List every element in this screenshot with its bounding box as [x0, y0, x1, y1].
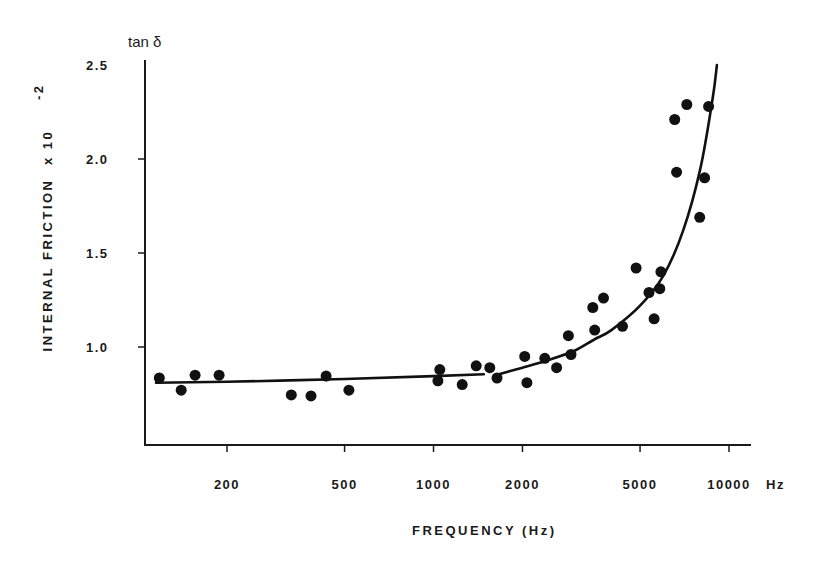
data-point	[321, 371, 332, 382]
data-point	[617, 321, 628, 332]
data-point	[539, 353, 550, 364]
y-tick-label: 1.0	[86, 340, 109, 355]
data-point	[492, 373, 503, 384]
x-tick-label: 2000	[505, 477, 540, 492]
x-tick-label: 5000	[623, 477, 658, 492]
y-axis-title-multiplier: x 10	[40, 130, 55, 165]
y-tick-label: 1.5	[86, 246, 109, 261]
y-tick-label: 2.5	[86, 58, 109, 73]
data-point	[432, 375, 443, 386]
y-tick-label: 2.0	[86, 152, 109, 167]
data-point	[154, 373, 165, 384]
data-point	[214, 370, 225, 381]
data-points	[154, 99, 714, 401]
chart: 1.01.52.02.5 tan δ INTERNAL FRICTION x 1…	[0, 0, 817, 567]
data-point	[190, 370, 201, 381]
data-point	[654, 283, 665, 294]
data-point	[598, 293, 609, 304]
data-point	[286, 389, 297, 400]
data-point	[563, 330, 574, 341]
data-point	[649, 313, 660, 324]
data-point	[655, 266, 666, 277]
y-axis: 1.01.52.02.5 tan δ INTERNAL FRICTION x 1…	[31, 33, 161, 446]
x-tick-label: 500	[331, 477, 357, 492]
data-point	[703, 101, 714, 112]
data-point	[484, 362, 495, 373]
y-ticks: 1.01.52.02.5	[86, 58, 145, 355]
data-point	[699, 172, 710, 183]
data-point	[176, 385, 187, 396]
data-point	[681, 99, 692, 110]
x-unit-label: Hz	[766, 477, 785, 492]
data-point	[521, 377, 532, 388]
data-point	[457, 379, 468, 390]
x-ticks: 20050010002000500010000	[214, 445, 751, 492]
data-point	[587, 302, 598, 313]
y-axis-title-main: INTERNAL FRICTION	[40, 179, 55, 352]
data-point	[694, 212, 705, 223]
x-axis-title: FREQUENCY (Hz)	[412, 523, 557, 538]
x-tick-label: 1000	[416, 477, 451, 492]
y-axis-title-exponent: -2	[31, 83, 46, 100]
fit-curve-high	[495, 65, 717, 375]
data-point	[589, 325, 600, 336]
data-point	[471, 360, 482, 371]
data-point	[519, 351, 530, 362]
x-tick-label: 10000	[707, 477, 751, 492]
data-point	[566, 349, 577, 360]
data-point	[669, 114, 680, 125]
y-axis-title: INTERNAL FRICTION x 10 -2	[31, 83, 55, 351]
fit-curves	[156, 65, 717, 383]
data-point	[343, 385, 354, 396]
x-axis: 20050010002000500010000 Hz FREQUENCY (Hz…	[144, 445, 785, 538]
x-tick-label: 200	[214, 477, 240, 492]
data-point	[631, 263, 642, 274]
data-point	[306, 390, 317, 401]
y-unit-label: tan δ	[128, 33, 161, 50]
data-point	[671, 167, 682, 178]
data-point	[551, 362, 562, 373]
data-point	[644, 287, 655, 298]
data-point	[434, 364, 445, 375]
